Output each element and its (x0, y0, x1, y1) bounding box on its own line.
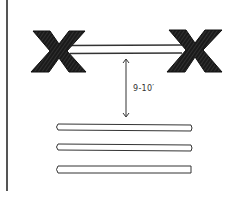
right-x-support-icon (167, 30, 222, 72)
top-bar (70, 45, 182, 54)
ground-bar (57, 124, 193, 131)
left-x-support-icon (31, 31, 86, 72)
ground-bar (57, 144, 193, 151)
diagram-drawing (0, 0, 237, 198)
ground-bar (57, 166, 192, 173)
clearance-height-label: 9-10′ (133, 84, 154, 93)
diagram-canvas: 9-10′ (0, 0, 237, 198)
clearance-dimension-arrow (123, 59, 129, 117)
